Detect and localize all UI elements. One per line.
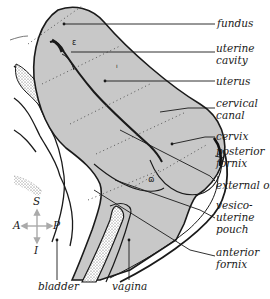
label-posterior-fornix-1: posterior: [216, 146, 265, 157]
label-cervical-canal-2: canal: [216, 110, 245, 121]
label-bladder: bladder: [38, 281, 79, 292]
label-vesico-3: pouch: [216, 224, 248, 235]
label-anterior-fornix-2: fornix: [216, 259, 247, 270]
label-uterine-cavity-2: cavity: [216, 55, 248, 66]
compass-inferior: I: [34, 245, 38, 256]
bladder-stipple: [14, 176, 42, 196]
label-vagina: vagina: [112, 281, 147, 292]
label-vesico-2: uterine: [216, 212, 255, 223]
label-cervix: cervix: [216, 131, 248, 142]
label-anterior-fornix-1: anterior: [216, 247, 259, 258]
uterus-diagram: ε ı ɷ: [0, 0, 270, 299]
compass-superior: S: [33, 196, 40, 207]
label-uterine-cavity-1: uterine: [216, 43, 255, 54]
label-cervical-canal-1: cervical: [216, 98, 258, 109]
label-posterior-fornix-2: fornix: [216, 158, 247, 169]
orientation-compass: [22, 210, 52, 243]
label-uterus: uterus: [216, 76, 250, 87]
compass-posterior: P: [53, 220, 60, 231]
label-fundus: fundus: [217, 18, 253, 29]
label-external-os: external os: [216, 180, 270, 191]
compass-anterior: A: [13, 220, 21, 231]
label-vesico-1: vesico-: [216, 200, 253, 211]
svg-text:ε: ε: [72, 38, 76, 47]
